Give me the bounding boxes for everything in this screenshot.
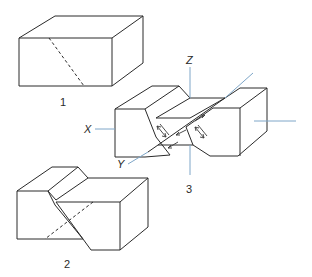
figure-2-fault-line: [45, 202, 93, 239]
fault-diagram: 1 2 3 X Y Z: [0, 0, 312, 277]
figure-3-label: 3: [186, 184, 192, 195]
y-axis-top: [225, 73, 253, 98]
diagram-drawing: [0, 0, 312, 277]
figure-2-block: [17, 167, 148, 250]
z-axis-label: Z: [186, 55, 193, 66]
figure-1-label: 1: [60, 97, 66, 108]
figure-2-label: 2: [64, 259, 70, 270]
figure-1-block: [19, 16, 143, 86]
y-axis-label: Y: [117, 159, 124, 170]
figure-3-block: [95, 67, 296, 175]
figure-1-fault-line: [49, 38, 84, 86]
x-axis-label: X: [84, 124, 91, 135]
y-axis-bottom: [128, 152, 148, 164]
shear-arrows: [157, 115, 207, 148]
